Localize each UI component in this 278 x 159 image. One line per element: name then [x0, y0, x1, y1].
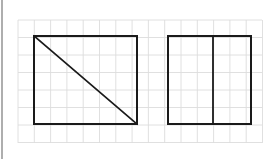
figure-canvas: [0, 0, 278, 159]
canvas-background: [0, 0, 278, 159]
geometry-figure-svg: [0, 0, 278, 159]
